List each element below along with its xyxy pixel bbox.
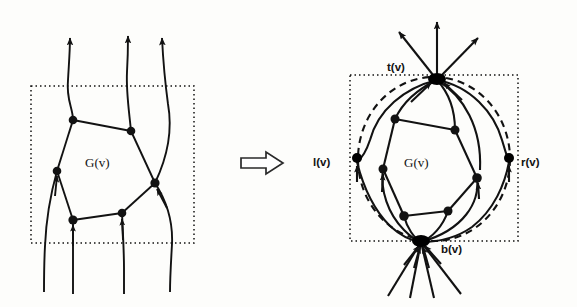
right-region-label: G(v)	[404, 155, 429, 170]
right-edge-a-b	[395, 119, 455, 130]
right-panel-after: G(v) t(v) b(v) l(v) r(v)	[313, 22, 540, 298]
left-strand-up-2	[127, 36, 131, 131]
left-strand-up-1	[68, 38, 73, 120]
left-strand-up-3	[155, 38, 170, 183]
right-outer-left-lower	[357, 162, 421, 242]
left-incoming-arrow-3	[122, 219, 123, 240]
right-top-arrow-3	[437, 38, 478, 80]
left-vertex-a	[69, 116, 78, 125]
left-graph-edges	[57, 120, 155, 220]
pole-label-l: l(v)	[313, 156, 330, 168]
right-graph-edges	[383, 119, 477, 216]
pole-node-r	[504, 153, 514, 163]
pole-node-t	[428, 73, 446, 85]
right-connector-t-c	[437, 80, 480, 170]
left-vertex-e	[68, 215, 77, 224]
right-vertex-a	[391, 115, 400, 124]
right-arrow-into-f	[382, 174, 383, 192]
transform-arrow-icon	[241, 152, 283, 174]
left-vertex-d	[118, 209, 127, 218]
left-strand-down-4	[155, 183, 172, 292]
right-vertex-b	[451, 126, 460, 135]
left-vertex-b	[127, 127, 136, 136]
right-graph-vertices	[379, 115, 482, 221]
right-boundary-rect	[350, 75, 518, 241]
right-edge-e-f	[383, 169, 404, 216]
pole-label-b: b(v)	[441, 243, 462, 255]
pole-label-r: r(v)	[521, 156, 540, 168]
left-edge-c-d	[122, 183, 155, 213]
left-edge-e-f	[57, 171, 73, 220]
right-connector-t-b	[437, 80, 455, 130]
left-edge-b-c	[131, 131, 155, 183]
right-vertex-e	[399, 211, 409, 221]
left-incoming-arrow-4	[157, 189, 167, 208]
right-arrow-into-c	[478, 183, 479, 199]
pole-label-t: t(v)	[387, 61, 405, 73]
left-region-label: G(v)	[85, 155, 110, 170]
right-edge-f-a	[383, 119, 395, 169]
pole-node-b	[412, 235, 430, 247]
left-vertex-f	[53, 167, 62, 176]
pole-node-l	[352, 153, 362, 163]
left-panel-before: G(v)	[31, 36, 194, 294]
right-edge-b-c	[455, 130, 477, 178]
right-vertex-d	[444, 207, 453, 216]
right-outer-right-lower	[421, 162, 509, 242]
right-vertex-c	[472, 173, 482, 183]
left-edge-d-e	[73, 213, 122, 220]
right-vertex-f	[379, 165, 388, 174]
right-edge-d-e	[404, 211, 448, 216]
left-vertex-c	[150, 178, 159, 187]
figure-canvas: G(v)	[0, 0, 577, 307]
left-edge-a-b	[73, 120, 131, 131]
left-edge-f-a	[57, 120, 73, 171]
